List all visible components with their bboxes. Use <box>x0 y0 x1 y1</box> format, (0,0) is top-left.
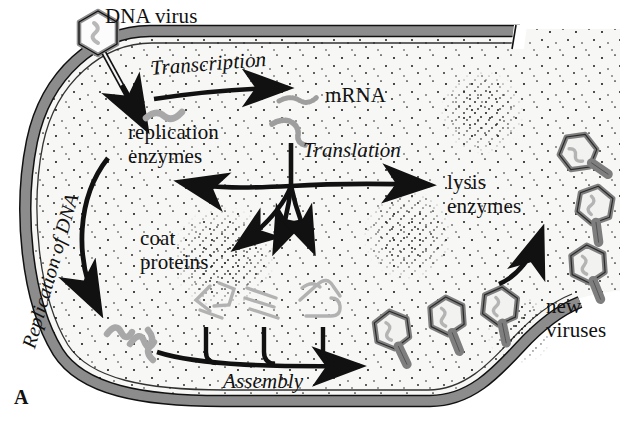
label-replication-enzymes-line2: enzymes <box>128 146 202 167</box>
label-new-viruses-line2: viruses <box>546 320 606 341</box>
label-dna-virus: DNA virus <box>105 6 198 27</box>
virus-lytic-cycle-figure: DNA virus Transcription mRNA replication… <box>0 0 633 421</box>
viral-dna-template <box>146 112 182 119</box>
label-translation: Translation <box>303 140 401 161</box>
panel-label: A <box>14 387 29 407</box>
label-lysis-enzymes-line1: lysis <box>447 172 486 193</box>
label-replication-enzymes-line1: replication <box>128 122 219 143</box>
diagram-canvas <box>0 0 633 421</box>
bacterial-cell <box>23 0 633 421</box>
lysis-enzymes-arrow <box>291 184 430 186</box>
label-lysis-enzymes-line2: enzymes <box>447 196 521 217</box>
label-mrna: mRNA <box>325 85 386 106</box>
label-new-viruses-line1: new <box>546 296 581 317</box>
label-coat-proteins-line2: proteins <box>140 252 208 273</box>
label-assembly: Assembly <box>223 371 303 392</box>
label-coat-proteins-line1: coat <box>140 228 175 249</box>
